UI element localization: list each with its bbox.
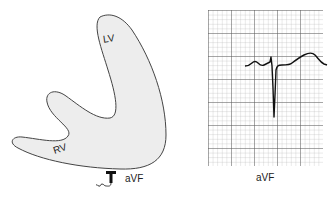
heart-diagram: LV RV aVF — [0, 0, 180, 197]
ecg-strip: aVF — [190, 0, 332, 197]
ecg-lead-label: aVF — [256, 172, 274, 183]
ecg-grid — [190, 0, 332, 197]
heart-ventricles-shape — [0, 0, 180, 197]
electrode-icon — [96, 171, 116, 186]
heart-lead-label: aVF — [125, 173, 143, 184]
lv-label: LV — [102, 32, 115, 44]
